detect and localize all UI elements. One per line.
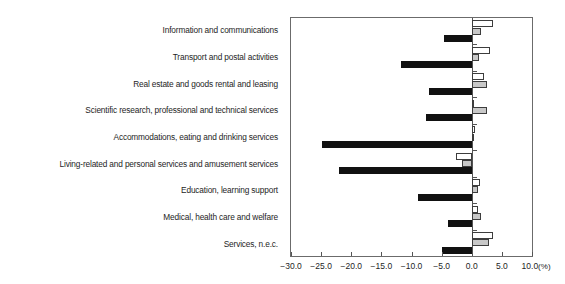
x-tick-label: 0.0 (466, 261, 478, 271)
category-label: Transport and postal activities (173, 52, 278, 62)
x-tick-mark (412, 252, 413, 256)
bar-2019-2 (472, 54, 479, 61)
x-tick-label: −30.0 (280, 261, 302, 271)
bar-2020-5 (322, 141, 471, 148)
category-label: Education, learning support (181, 185, 278, 195)
x-tick-mark (472, 252, 473, 256)
bar-2018-3 (472, 73, 485, 80)
bar-2019-5 (472, 134, 474, 141)
x-tick-mark (291, 252, 292, 256)
bar-2020-1 (444, 35, 472, 42)
x-tick-mark (532, 252, 533, 256)
bar-2019-9 (472, 239, 489, 246)
x-tick-label: −15.0 (371, 261, 393, 271)
category-label: Living-related and personal services and… (59, 159, 278, 169)
x-tick-label: −10.0 (401, 261, 423, 271)
x-axis-unit: (%) (538, 262, 550, 271)
row-tick-mark (473, 230, 477, 231)
row-tick-mark (473, 97, 477, 98)
category-label: Medical, health care and welfare (163, 212, 278, 222)
x-tick-label: 5.0 (496, 261, 508, 271)
plot-inner (291, 18, 532, 256)
x-tick-mark (321, 252, 322, 256)
bar-2018-7 (472, 179, 480, 186)
row-tick-mark (473, 44, 477, 45)
category-axis-labels: Information and communications Transport… (0, 17, 284, 257)
row-tick-mark (473, 150, 477, 151)
bar-2018-5 (472, 126, 476, 133)
category-label: Information and communications (163, 25, 278, 35)
bar-2018-1 (472, 20, 494, 27)
row-tick-mark (473, 71, 477, 72)
bar-2019-4 (472, 107, 488, 114)
bar-2020-8 (448, 220, 471, 227)
category-label: Services, n.e.c. (224, 239, 278, 249)
plot-area: 2018 2019 2020 (290, 17, 533, 257)
bar-2020-2 (401, 61, 472, 68)
row-tick-mark (473, 177, 477, 178)
bar-2019-7 (472, 186, 479, 193)
bar-2019-8 (472, 213, 482, 220)
bar-2020-3 (429, 88, 472, 95)
x-tick-mark (442, 252, 443, 256)
bar-2018-8 (472, 206, 479, 213)
bar-2018-4 (472, 100, 474, 107)
x-tick-label: 10.0(%) (522, 261, 551, 271)
x-tick-mark (351, 252, 352, 256)
row-tick-mark (473, 124, 477, 125)
x-axis-tick-labels: −30.0−25.0−20.0−15.0−10.0−5.00.05.010.0(… (0, 261, 565, 277)
bar-2019-3 (472, 81, 488, 88)
bar-2020-9 (442, 247, 472, 254)
bar-2018-6 (456, 153, 472, 160)
bar-2019-6 (462, 160, 472, 167)
horizontal-bar-chart: Information and communications Transport… (0, 0, 565, 284)
bar-2020-4 (426, 114, 472, 121)
bar-2020-6 (339, 167, 472, 174)
x-tick-mark (502, 252, 503, 256)
x-tick-label: −25.0 (310, 261, 332, 271)
category-label: Real estate and goods rental and leasing (133, 79, 278, 89)
category-label: Scientific research, professional and te… (85, 105, 278, 115)
bar-2019-1 (472, 28, 482, 35)
category-label: Accommodations, eating and drinking serv… (114, 132, 279, 142)
bar-2018-2 (472, 47, 491, 54)
x-tick-label: −20.0 (340, 261, 362, 271)
bar-2018-9 (472, 232, 494, 239)
x-tick-mark (381, 252, 382, 256)
x-tick-label: −5.0 (433, 261, 450, 271)
bar-2020-7 (418, 194, 472, 201)
row-tick-mark (473, 203, 477, 204)
